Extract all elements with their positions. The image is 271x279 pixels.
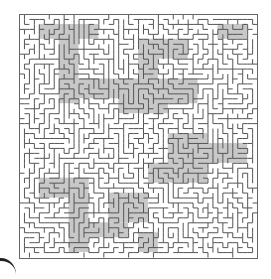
cropped-corner-shape: [0, 258, 16, 279]
maze-grid[interactable]: [19, 14, 258, 259]
